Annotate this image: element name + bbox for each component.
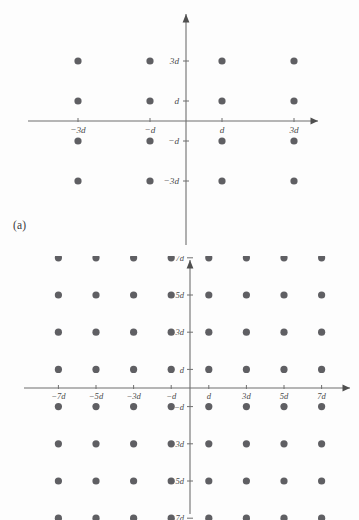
svg-text:−d: −d — [166, 391, 177, 401]
svg-text:−d: −d — [174, 402, 185, 412]
constellation-figure: −3d−dd3d3dd−d−3d (a) −7d−5d−3d−dd3d5d7d7… — [0, 0, 359, 520]
plot-b-svg: −7d−5d−3d−dd3d5d7d7d5d3dd−d−3d−5d−7d — [0, 256, 359, 520]
svg-text:−d: −d — [145, 125, 156, 135]
svg-text:−3d: −3d — [164, 176, 180, 186]
svg-text:−3d: −3d — [70, 125, 86, 135]
panel-a-caption: (a) — [13, 219, 26, 231]
svg-text:−7d: −7d — [51, 391, 66, 401]
svg-text:5d: 5d — [175, 290, 184, 300]
svg-text:−d: −d — [168, 136, 179, 146]
svg-text:−3d: −3d — [126, 391, 141, 401]
svg-text:−5d: −5d — [89, 391, 104, 401]
svg-text:d: d — [174, 96, 179, 106]
svg-text:d: d — [220, 125, 225, 135]
svg-text:5d: 5d — [280, 391, 289, 401]
panel-a-16qam: −3d−dd3d3dd−d−3d (a) — [0, 0, 359, 256]
svg-text:7d: 7d — [317, 391, 326, 401]
svg-text:3d: 3d — [174, 327, 184, 337]
svg-text:7d: 7d — [175, 256, 184, 263]
svg-text:3d: 3d — [288, 125, 299, 135]
svg-text:3d: 3d — [169, 56, 180, 66]
plot-a-svg: −3d−dd3d3dd−d−3d — [0, 0, 359, 256]
svg-text:d: d — [207, 391, 212, 401]
svg-text:d: d — [180, 365, 185, 375]
svg-text:3d: 3d — [241, 391, 251, 401]
panel-b-64qam: −7d−5d−3d−dd3d5d7d7d5d3dd−d−3d−5d−7d (b) — [0, 256, 359, 520]
